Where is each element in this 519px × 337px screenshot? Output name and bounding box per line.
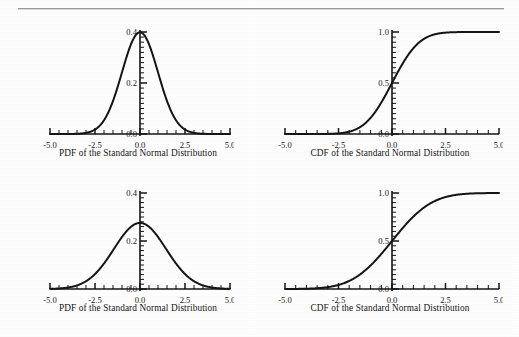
- plot-bottom-right-cdf: -5.0-2.50.02.55.00.00.51.0: [277, 185, 503, 303]
- y-tick-label: 0.0: [126, 284, 137, 294]
- figure-top-right-cdf: -5.0-2.50.02.55.00.00.51.0 CDF of the St…: [277, 24, 503, 164]
- y-tick-label: 0.0: [378, 129, 389, 139]
- chart-svg: -5.0-2.50.02.55.00.00.51.0: [277, 185, 503, 303]
- x-tick-label: -2.5: [88, 295, 102, 303]
- chart-svg: -5.0-2.50.02.55.00.00.20.4: [42, 24, 234, 148]
- x-tick-label: -2.5: [332, 140, 346, 148]
- y-tick-label: 0.5: [378, 236, 389, 246]
- y-tick-label: 0.2: [126, 236, 137, 246]
- x-tick-label: 0.0: [387, 140, 398, 148]
- x-tick-label: 5.0: [225, 140, 234, 148]
- figure-top-left-pdf: -5.0-2.50.02.55.00.00.20.4 PDF of the St…: [42, 24, 234, 164]
- y-tick-label: 0.0: [126, 129, 137, 139]
- x-tick-label: -2.5: [88, 140, 102, 148]
- x-tick-label: 5.0: [494, 140, 503, 148]
- y-tick-label: 1.0: [378, 188, 389, 198]
- caption-top-left-pdf: PDF of the Standard Normal Distribution: [42, 148, 234, 158]
- chart-svg: -5.0-2.50.02.55.00.00.51.0: [277, 24, 503, 148]
- figure-bottom-right-cdf: -5.0-2.50.02.55.00.00.51.0 CDF of the St…: [277, 185, 503, 325]
- x-tick-label: -5.0: [43, 295, 57, 303]
- y-tick-label: 0.5: [378, 78, 389, 88]
- figure-page: -5.0-2.50.02.55.00.00.20.4 PDF of the St…: [0, 0, 519, 337]
- caption-bottom-left-pdf: PDF of the Standard Normal Distribution: [42, 303, 234, 313]
- x-tick-label: -2.5: [332, 295, 346, 303]
- plot-top-right-cdf: -5.0-2.50.02.55.00.00.51.0: [277, 24, 503, 148]
- x-tick-label: 0.0: [135, 140, 146, 148]
- x-tick-label: 0.0: [387, 295, 398, 303]
- x-tick-label: 2.5: [440, 140, 451, 148]
- x-tick-label: -5.0: [278, 140, 292, 148]
- caption-bottom-right-cdf: CDF of the Standard Normal Distribution: [277, 303, 503, 313]
- plot-top-left-pdf: -5.0-2.50.02.55.00.00.20.4: [42, 24, 234, 148]
- plot-bottom-left-pdf: -5.0-2.50.02.55.00.00.20.4: [42, 185, 234, 303]
- y-tick-label: 0.0: [378, 284, 389, 294]
- x-tick-label: 2.5: [440, 295, 451, 303]
- chart-svg: -5.0-2.50.02.55.00.00.20.4: [42, 185, 234, 303]
- y-tick-label: 1.0: [378, 27, 389, 37]
- x-tick-label: 5.0: [494, 295, 503, 303]
- figure-bottom-left-pdf: -5.0-2.50.02.55.00.00.20.4 PDF of the St…: [42, 185, 234, 325]
- x-tick-label: 0.0: [135, 295, 146, 303]
- y-tick-label: 0.2: [126, 78, 137, 88]
- y-tick-label: 0.4: [126, 188, 137, 198]
- page-top-rule: [18, 8, 504, 9]
- x-tick-label: 5.0: [225, 295, 234, 303]
- x-tick-label: -5.0: [43, 140, 57, 148]
- caption-top-right-cdf: CDF of the Standard Normal Distribution: [277, 148, 503, 158]
- x-tick-label: 2.5: [180, 295, 191, 303]
- x-tick-label: 2.5: [180, 140, 191, 148]
- x-tick-label: -5.0: [278, 295, 292, 303]
